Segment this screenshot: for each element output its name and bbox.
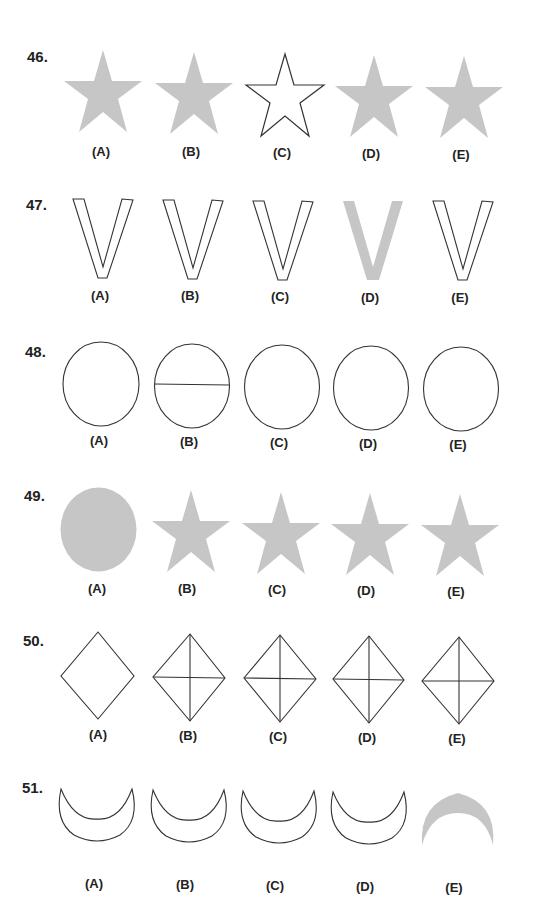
diamond-outline-icon	[61, 632, 135, 720]
option-label: (C)	[260, 289, 300, 304]
star-shaded-icon	[331, 493, 409, 575]
option-label: (B)	[165, 877, 205, 892]
option-label: (B)	[170, 288, 210, 303]
option-label: (D)	[347, 730, 387, 745]
option-label: (C)	[258, 729, 298, 744]
crescent-outline-icon	[242, 791, 316, 845]
option-label: (A)	[77, 581, 117, 596]
option-label: (D)	[346, 583, 386, 598]
option-label: (B)	[168, 728, 208, 743]
option-label: (E)	[436, 584, 476, 599]
v-outline-icon	[433, 201, 493, 281]
option-label: (E)	[437, 731, 477, 746]
star-shaded-icon	[152, 490, 230, 572]
star-shaded-icon	[421, 494, 499, 576]
diamond-with-cross-icon	[422, 637, 496, 725]
question-number: 50.	[23, 632, 44, 649]
question-number: 49.	[24, 487, 45, 504]
question-number: 46.	[27, 48, 48, 65]
option-label: (D)	[351, 146, 391, 161]
diamond-with-cross-icon	[333, 636, 407, 724]
option-label: (B)	[167, 581, 207, 596]
star-shaded-icon	[64, 50, 142, 132]
v-outline-icon	[163, 200, 223, 280]
option-label: (C)	[257, 582, 297, 597]
diamond-with-cross-icon	[153, 634, 227, 722]
option-label: (A)	[78, 727, 118, 742]
star-shaded-icon	[335, 55, 413, 137]
option-label: (A)	[81, 144, 121, 159]
circle-shaded-icon	[60, 487, 138, 573]
option-label: (E)	[438, 437, 478, 452]
option-label: (C)	[262, 145, 302, 160]
circle-outline-icon	[423, 346, 501, 432]
option-label: (A)	[74, 876, 114, 891]
option-label: (D)	[345, 879, 385, 894]
question-number: 51.	[22, 779, 43, 796]
option-label: (D)	[348, 436, 388, 451]
crescent-shaded-icon	[421, 793, 495, 847]
question-number: 48.	[25, 343, 46, 360]
option-label: (C)	[255, 878, 295, 893]
circle-outline-icon	[333, 345, 411, 431]
option-label: (C)	[259, 435, 299, 450]
star-outline-icon	[246, 54, 324, 136]
v-outline-icon	[253, 201, 313, 281]
option-label: (B)	[169, 434, 209, 449]
v-shaded-icon	[343, 201, 403, 281]
circle-outline-icon	[244, 344, 322, 430]
star-shaded-icon	[242, 492, 320, 574]
option-label: (D)	[350, 290, 390, 305]
option-label: (E)	[440, 290, 480, 305]
option-label: (A)	[80, 288, 120, 303]
option-label: (A)	[79, 433, 119, 448]
star-shaded-icon	[155, 52, 233, 134]
diamond-with-cross-icon	[244, 635, 318, 723]
circle-with-diameter-icon	[154, 343, 232, 429]
v-outline-icon	[73, 199, 133, 279]
star-shaded-icon	[425, 56, 503, 138]
crescent-outline-icon	[332, 792, 406, 846]
option-label: (E)	[441, 147, 481, 162]
crescent-outline-icon	[152, 790, 226, 844]
option-label: (E)	[434, 880, 474, 895]
circle-outline-icon	[62, 341, 140, 427]
question-number: 47.	[26, 196, 47, 213]
option-label: (B)	[171, 144, 211, 159]
crescent-outline-icon	[60, 789, 134, 843]
